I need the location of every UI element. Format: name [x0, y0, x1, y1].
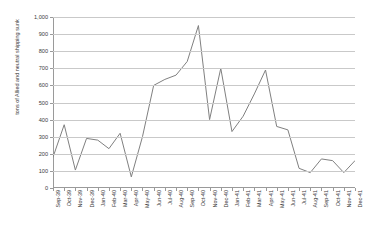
gridline [53, 103, 355, 104]
x-tick-label: Jul-41 [301, 190, 307, 205]
plot-area [53, 17, 355, 188]
x-tick-label: Mar-41 [256, 190, 262, 207]
y-tick-label: 1,000 [34, 14, 48, 20]
x-tick-label: Dec-39 [89, 190, 95, 207]
y-axis-tick [50, 68, 53, 69]
y-tick-label: 700 [39, 65, 48, 71]
x-tick-label: Dec-40 [223, 190, 229, 207]
y-tick-label: 0 [45, 185, 48, 191]
y-axis-tick [50, 51, 53, 52]
y-axis-tick [50, 17, 53, 18]
x-tick-label: Oct-40 [200, 190, 206, 206]
y-tick-label: 100 [39, 168, 48, 174]
x-tick-label: Oct-39 [66, 190, 72, 206]
y-axis-tick [50, 103, 53, 104]
x-tick-label: Sep-39 [55, 190, 61, 207]
x-tick-label: Nov-41 [346, 190, 352, 207]
gridline [53, 34, 355, 35]
x-tick-label: Jun-41 [290, 190, 296, 206]
gridline [53, 68, 355, 69]
x-tick-label: Nov-39 [77, 190, 83, 207]
y-axis-tick [50, 120, 53, 121]
x-tick-label: Aug-41 [312, 190, 318, 207]
x-tick-label: Aug-40 [178, 190, 184, 207]
gridline [53, 171, 355, 172]
x-axis-tick-labels: Sep-39Oct-39Nov-39Dec-39Jan-40Feb-40Mar-… [53, 190, 355, 227]
y-axis-tick-labels: 1,0009008007006005004003002001000 [14, 0, 48, 227]
gridline [53, 154, 355, 155]
y-tick-label: 900 [39, 31, 48, 37]
x-tick-label: Apr-40 [133, 190, 139, 206]
x-tick-label: Apr-41 [268, 190, 274, 206]
y-axis-tick [50, 85, 53, 86]
x-tick-label: Sep-40 [189, 190, 195, 207]
x-tick-label: May-40 [144, 190, 150, 208]
x-tick-label: Feb-40 [111, 190, 117, 207]
gridline [53, 120, 355, 121]
gridline [53, 51, 355, 52]
y-tick-label: 200 [39, 151, 48, 157]
y-axis-tick [50, 34, 53, 35]
y-axis-tick [50, 137, 53, 138]
x-tick-label: Dec-41 [357, 190, 363, 207]
x-tick-label: Nov-40 [212, 190, 218, 207]
shipping-losses-line-chart: tons of Allied and neutral shipping sunk… [0, 0, 369, 227]
x-tick-label: Feb-41 [245, 190, 251, 207]
y-axis-tick [50, 171, 53, 172]
y-tick-label: 600 [39, 82, 48, 88]
x-tick-label: Sep-41 [323, 190, 329, 207]
gridline [53, 17, 355, 18]
y-tick-label: 500 [39, 100, 48, 106]
x-tick-label: Jan-41 [234, 190, 240, 206]
x-axis-tick [355, 188, 356, 191]
gridline [53, 85, 355, 86]
x-tick-label: May-41 [279, 190, 285, 208]
x-tick-label: Jun-40 [156, 190, 162, 206]
x-tick-label: Jan-40 [100, 190, 106, 206]
gridline [53, 137, 355, 138]
x-tick-label: Oct-41 [335, 190, 341, 206]
x-tick-label: Jul-40 [167, 190, 173, 205]
x-tick-label: Mar-40 [122, 190, 128, 207]
y-tick-label: 400 [39, 117, 48, 123]
y-axis-tick [50, 154, 53, 155]
y-tick-label: 300 [39, 134, 48, 140]
y-tick-label: 800 [39, 48, 48, 54]
